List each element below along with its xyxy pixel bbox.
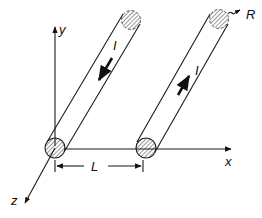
radius-label: R bbox=[246, 7, 255, 22]
left-rod-edge-right bbox=[64, 24, 140, 152]
right-rod-near-end bbox=[136, 138, 156, 158]
x-axis-label: x bbox=[224, 154, 232, 169]
left-current-label: I bbox=[113, 38, 117, 53]
right-current-label: I bbox=[195, 63, 199, 78]
right-current-arrow bbox=[178, 76, 189, 95]
z-axis-label: z bbox=[10, 193, 18, 208]
radius-indicator bbox=[228, 10, 240, 14]
right-rod-edge-right bbox=[155, 24, 228, 152]
left-rod-near-end bbox=[45, 138, 65, 158]
right-rod: I bbox=[136, 10, 229, 159]
separation-dimension: L bbox=[55, 159, 143, 174]
left-rod-far-end bbox=[122, 11, 141, 30]
separation-label: L bbox=[91, 159, 98, 174]
left-current-arrow bbox=[99, 58, 112, 80]
y-axis-label: y bbox=[58, 22, 67, 37]
diagram: y z x I I R L bbox=[0, 0, 262, 218]
right-rod-far-end bbox=[210, 10, 229, 29]
right-rod-edge-left bbox=[137, 14, 210, 142]
